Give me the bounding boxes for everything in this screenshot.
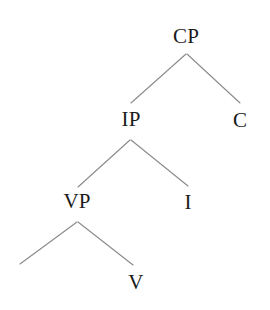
node-label-i: I <box>184 192 191 213</box>
edge-ip-vp <box>78 140 130 187</box>
syntax-tree-diagram: CP IP C VP I V <box>0 0 270 310</box>
edge-vp-spec <box>20 222 77 264</box>
edge-cp-ip <box>131 54 186 103</box>
edge-ip-i <box>131 140 188 186</box>
edge-cp-c <box>187 54 240 103</box>
node-label-cp: CP <box>173 26 199 47</box>
node-label-ip: IP <box>121 109 140 130</box>
node-label-vp: VP <box>63 191 90 212</box>
node-label-v: V <box>128 272 143 293</box>
tree-branch-lines <box>0 0 270 310</box>
edge-vp-v <box>78 222 133 265</box>
node-label-c: C <box>233 110 247 131</box>
